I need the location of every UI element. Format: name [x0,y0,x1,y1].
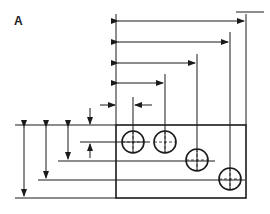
dimension-drawing [0,0,270,214]
